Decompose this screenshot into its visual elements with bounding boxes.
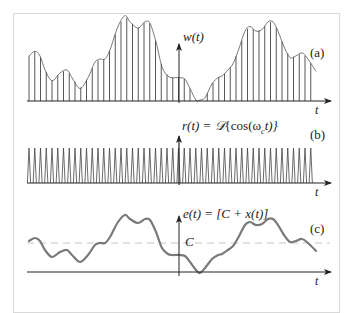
panel-c-envelope (27, 215, 331, 276)
t-axis-label-c: t (315, 275, 318, 287)
e-of-t-label: e(t) = [C + x(t)] (183, 207, 268, 220)
panel-tag-a: (a) (310, 46, 324, 59)
panel-tag-c: (c) (310, 222, 324, 235)
sample-stems (29, 18, 311, 101)
level-c-label: C (185, 235, 194, 248)
panel-a-sampled-signal (27, 16, 331, 103)
w-of-t-label: w(t) (183, 30, 204, 43)
t-axis-label-a: t (315, 104, 318, 116)
cos-open: {cos(ω (225, 118, 261, 133)
panel-b-pulse-train (27, 136, 331, 185)
r-of-t-label: r(t) = 𝒟{cos(ωct)} (182, 119, 278, 136)
cos-close: t)} (265, 118, 278, 133)
d-operator: 𝒟 (215, 118, 225, 133)
envelope-curve (29, 215, 316, 273)
pulse-train (27, 148, 312, 183)
r-lhs: r(t) = (182, 118, 215, 133)
t-axis-label-b: t (315, 186, 318, 198)
panel-tag-b: (b) (310, 128, 325, 141)
